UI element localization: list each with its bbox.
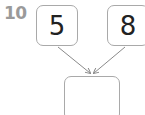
arrow-left xyxy=(58,47,90,73)
arrow-right xyxy=(94,47,125,73)
answer-box[interactable] xyxy=(64,76,120,115)
